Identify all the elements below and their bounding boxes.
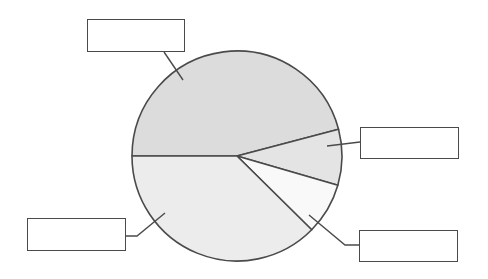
- pie-slices: [132, 51, 342, 261]
- callout-top-slice: [87, 19, 185, 52]
- pie-chart: [0, 0, 488, 279]
- callout-right-slice: [360, 127, 459, 159]
- callout-white-slice: [359, 230, 458, 262]
- callout-bottom-slice: [27, 218, 126, 251]
